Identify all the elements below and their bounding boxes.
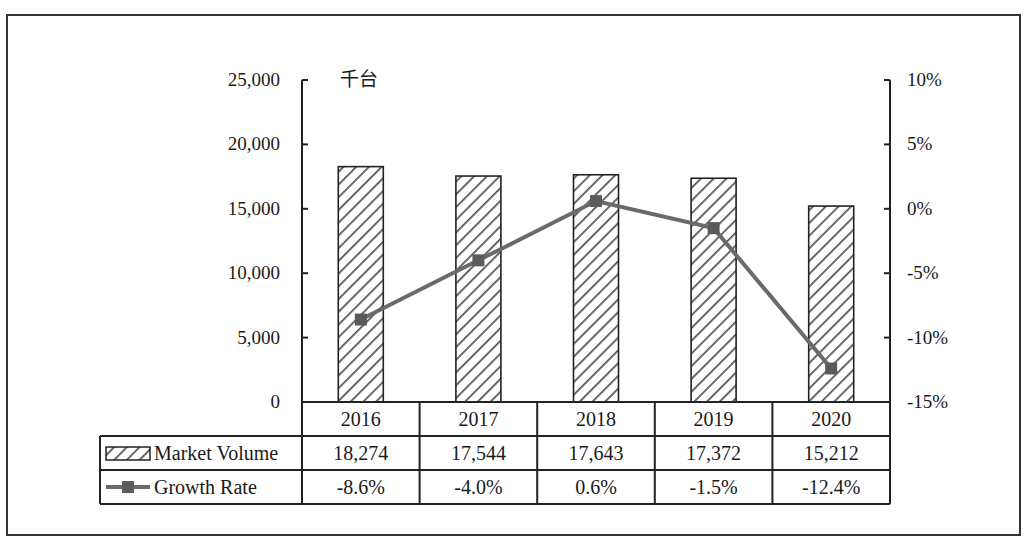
right-axis-tick-label: -10% [907,327,948,348]
legend-label-market-volume: Market Volume [154,442,278,464]
growth-rate-cell: -12.4% [802,476,860,498]
marker-2018 [590,195,602,207]
bar-2017 [456,176,501,402]
right-axis-tick-label: -15% [907,391,948,412]
right-axis-tick-label: 5% [907,133,933,154]
legend-key-hatch-icon [106,447,150,460]
category-label: 2020 [811,408,851,430]
category-label: 2019 [694,408,734,430]
market-volume-cell: 18,274 [333,442,388,464]
market-volume-cell: 15,212 [804,442,859,464]
marker-2016 [355,314,367,326]
right-axis-tick-label: 0% [907,198,933,219]
market-volume-cell: 17,544 [451,442,506,464]
legend-label-growth-rate: Growth Rate [154,476,257,498]
left-axis-tick-label: 5,000 [237,327,280,348]
right-axis-tick-label: 10% [907,69,942,90]
data-table: 201618,274-8.6%201717,544-4.0%201817,643… [100,402,890,504]
bar-2016 [338,167,383,402]
left-axis-tick-label: 25,000 [228,69,280,90]
growth-rate-cell: -4.0% [454,476,502,498]
left-axis-tick-label: 0 [271,391,281,412]
unit-label: 千台 [340,68,378,90]
right-axis-tick-label: -5% [907,262,939,283]
marker-2017 [472,254,484,266]
chart-canvas: 05,00010,00015,00020,00025,000-15%-10%-5… [0,0,1033,540]
left-axis-tick-label: 15,000 [228,198,280,219]
market-volume-cell: 17,643 [569,442,624,464]
left-axis-tick-label: 20,000 [228,133,280,154]
marker-2019 [708,222,720,234]
marker-2020 [825,363,837,375]
category-label: 2016 [341,408,381,430]
category-label: 2018 [576,408,616,430]
market-volume-cell: 17,372 [686,442,741,464]
growth-rate-cell: -1.5% [689,476,737,498]
legend-key-marker-icon [122,481,134,493]
growth-rate-cell: 0.6% [575,476,617,498]
left-axis-tick-label: 10,000 [228,262,280,283]
growth-rate-cell: -8.6% [337,476,385,498]
bar-2019 [691,178,736,402]
category-label: 2017 [458,408,498,430]
